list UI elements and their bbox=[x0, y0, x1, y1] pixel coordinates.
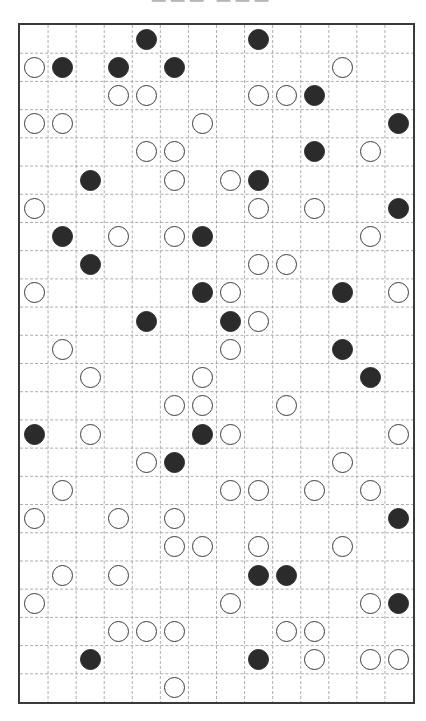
grid-cell[interactable] bbox=[104, 307, 132, 335]
grid-cell[interactable] bbox=[301, 335, 329, 363]
grid-cell[interactable] bbox=[385, 307, 413, 335]
grid-cell[interactable] bbox=[357, 392, 385, 420]
grid-cell[interactable] bbox=[329, 166, 357, 194]
grid-cell[interactable] bbox=[76, 138, 104, 166]
grid-cell[interactable] bbox=[273, 392, 301, 420]
grid-cell[interactable] bbox=[20, 25, 48, 53]
grid-cell[interactable] bbox=[160, 307, 188, 335]
grid-cell[interactable] bbox=[216, 674, 244, 702]
grid-cell[interactable] bbox=[245, 251, 273, 279]
grid-cell[interactable] bbox=[216, 251, 244, 279]
grid-cell[interactable] bbox=[132, 25, 160, 53]
grid-cell[interactable] bbox=[385, 25, 413, 53]
grid-cell[interactable] bbox=[357, 335, 385, 363]
grid-cell[interactable] bbox=[357, 364, 385, 392]
grid-cell[interactable] bbox=[357, 448, 385, 476]
grid-cell[interactable] bbox=[132, 194, 160, 222]
grid-cell[interactable] bbox=[385, 561, 413, 589]
grid-cell[interactable] bbox=[357, 505, 385, 533]
grid-cell[interactable] bbox=[216, 392, 244, 420]
grid-cell[interactable] bbox=[385, 364, 413, 392]
grid-cell[interactable] bbox=[76, 392, 104, 420]
grid-cell[interactable] bbox=[301, 589, 329, 617]
grid-cell[interactable] bbox=[104, 166, 132, 194]
grid-cell[interactable] bbox=[245, 533, 273, 561]
grid-cell[interactable] bbox=[385, 448, 413, 476]
grid-cell[interactable] bbox=[20, 138, 48, 166]
grid-cell[interactable] bbox=[301, 420, 329, 448]
grid-cell[interactable] bbox=[132, 81, 160, 109]
grid-cell[interactable] bbox=[357, 561, 385, 589]
grid-cell[interactable] bbox=[48, 307, 76, 335]
grid-cell[interactable] bbox=[48, 25, 76, 53]
grid-cell[interactable] bbox=[160, 561, 188, 589]
grid-cell[interactable] bbox=[160, 138, 188, 166]
grid-cell[interactable] bbox=[188, 307, 216, 335]
grid-cell[interactable] bbox=[20, 420, 48, 448]
grid-cell[interactable] bbox=[357, 476, 385, 504]
grid-cell[interactable] bbox=[357, 674, 385, 702]
grid-cell[interactable] bbox=[357, 138, 385, 166]
grid-cell[interactable] bbox=[188, 194, 216, 222]
grid-cell[interactable] bbox=[188, 420, 216, 448]
grid-cell[interactable] bbox=[385, 222, 413, 250]
grid-cell[interactable] bbox=[104, 110, 132, 138]
grid-cell[interactable] bbox=[104, 646, 132, 674]
grid-cell[interactable] bbox=[329, 561, 357, 589]
grid-cell[interactable] bbox=[104, 476, 132, 504]
grid-cell[interactable] bbox=[385, 392, 413, 420]
grid-cell[interactable] bbox=[245, 53, 273, 81]
grid-cell[interactable] bbox=[132, 364, 160, 392]
grid-cell[interactable] bbox=[385, 251, 413, 279]
grid-cell[interactable] bbox=[76, 533, 104, 561]
grid-cell[interactable] bbox=[104, 335, 132, 363]
grid-cell[interactable] bbox=[329, 476, 357, 504]
grid-cell[interactable] bbox=[76, 251, 104, 279]
grid-cell[interactable] bbox=[329, 53, 357, 81]
grid-cell[interactable] bbox=[273, 307, 301, 335]
grid-cell[interactable] bbox=[273, 110, 301, 138]
grid-cell[interactable] bbox=[76, 420, 104, 448]
grid-cell[interactable] bbox=[20, 222, 48, 250]
grid-cell[interactable] bbox=[20, 110, 48, 138]
grid-cell[interactable] bbox=[20, 505, 48, 533]
grid-cell[interactable] bbox=[273, 81, 301, 109]
grid-cell[interactable] bbox=[48, 420, 76, 448]
grid-cell[interactable] bbox=[188, 617, 216, 645]
grid-cell[interactable] bbox=[329, 110, 357, 138]
grid-cell[interactable] bbox=[329, 589, 357, 617]
grid-cell[interactable] bbox=[245, 279, 273, 307]
grid-cell[interactable] bbox=[245, 307, 273, 335]
grid-cell[interactable] bbox=[160, 279, 188, 307]
grid-cell[interactable] bbox=[301, 251, 329, 279]
grid-cell[interactable] bbox=[245, 589, 273, 617]
grid-cell[interactable] bbox=[48, 222, 76, 250]
grid-cell[interactable] bbox=[132, 110, 160, 138]
grid-cell[interactable] bbox=[273, 561, 301, 589]
grid-cell[interactable] bbox=[20, 561, 48, 589]
grid-cell[interactable] bbox=[273, 533, 301, 561]
grid-cell[interactable] bbox=[104, 25, 132, 53]
grid-cell[interactable] bbox=[48, 335, 76, 363]
grid-cell[interactable] bbox=[385, 194, 413, 222]
grid-cell[interactable] bbox=[20, 307, 48, 335]
grid-cell[interactable] bbox=[20, 279, 48, 307]
grid-cell[interactable] bbox=[385, 505, 413, 533]
grid-cell[interactable] bbox=[216, 222, 244, 250]
grid-cell[interactable] bbox=[216, 81, 244, 109]
grid-cell[interactable] bbox=[132, 561, 160, 589]
grid-cell[interactable] bbox=[216, 53, 244, 81]
grid-cell[interactable] bbox=[245, 166, 273, 194]
grid-cell[interactable] bbox=[329, 505, 357, 533]
grid-cell[interactable] bbox=[216, 448, 244, 476]
grid-cell[interactable] bbox=[160, 589, 188, 617]
grid-cell[interactable] bbox=[104, 81, 132, 109]
grid-cell[interactable] bbox=[329, 448, 357, 476]
grid-cell[interactable] bbox=[160, 364, 188, 392]
grid-cell[interactable] bbox=[329, 420, 357, 448]
grid-cell[interactable] bbox=[160, 335, 188, 363]
grid-cell[interactable] bbox=[48, 589, 76, 617]
grid-cell[interactable] bbox=[104, 505, 132, 533]
grid-cell[interactable] bbox=[216, 25, 244, 53]
grid-cell[interactable] bbox=[273, 25, 301, 53]
